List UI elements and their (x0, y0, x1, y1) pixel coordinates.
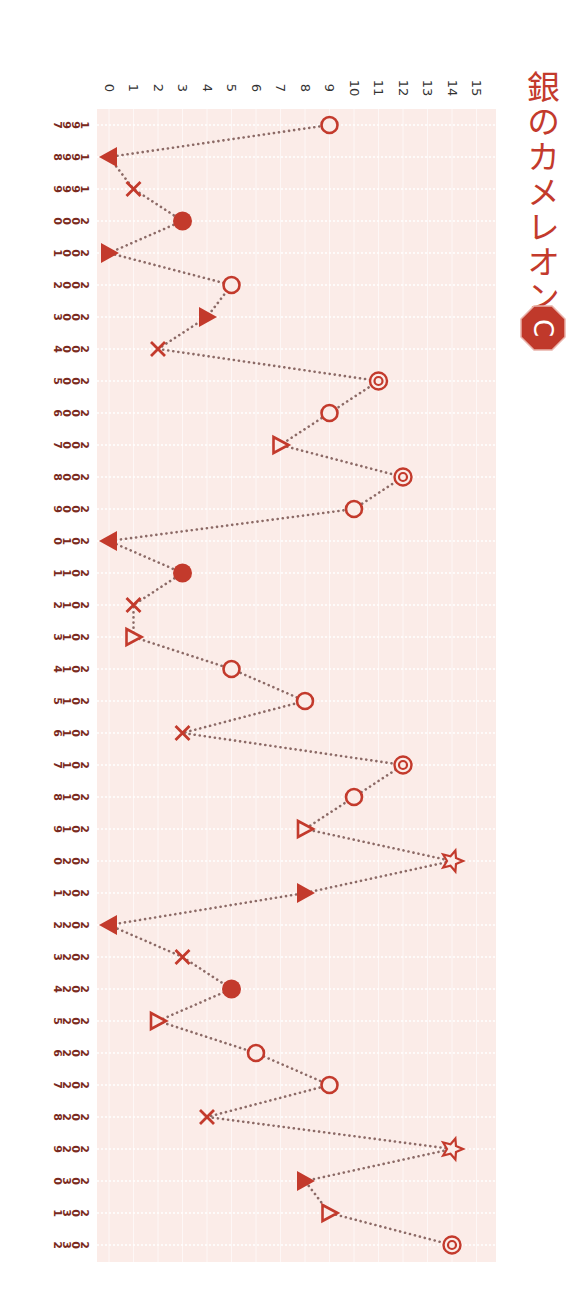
year-label: 2014 (51, 665, 91, 673)
year-label: 2005 (51, 377, 91, 385)
svg-text:7: 7 (51, 761, 64, 769)
chart-title-text: 銀のカメレオン (516, 70, 566, 315)
svg-text:0: 0 (51, 217, 64, 225)
year-label: 2019 (51, 825, 91, 833)
year-label: 2025 (51, 1017, 91, 1025)
svg-text:6: 6 (51, 729, 64, 737)
year-label: 2031 (51, 1209, 91, 1217)
year-label: 2029 (51, 1145, 91, 1153)
marker-circle-icon (297, 693, 313, 709)
value-tick-label: 7 (273, 84, 288, 92)
svg-text:7: 7 (51, 121, 64, 129)
value-tick-label: 2 (151, 84, 166, 92)
marker-dot-icon (173, 212, 192, 231)
year-label: 2007 (51, 441, 91, 449)
svg-text:3: 3 (51, 313, 64, 321)
marker-circle-icon (322, 405, 338, 421)
year-label: 2022 (51, 921, 91, 929)
svg-text:8: 8 (51, 793, 64, 801)
svg-text:2: 2 (51, 1241, 64, 1249)
svg-text:6: 6 (51, 1049, 64, 1057)
svg-text:6: 6 (51, 409, 64, 417)
marker-double-circle-icon (395, 757, 412, 774)
svg-text:7: 7 (51, 1081, 64, 1089)
value-tick-label: 3 (175, 84, 190, 92)
year-label: 2001 (51, 249, 91, 257)
marker-circle-icon (322, 117, 338, 133)
marker-double-circle-icon (395, 469, 412, 486)
marker-circle-icon (346, 789, 362, 805)
svg-text:1: 1 (51, 889, 64, 897)
year-label: 2011 (51, 569, 91, 577)
svg-text:5: 5 (51, 377, 64, 385)
svg-text:8: 8 (51, 473, 64, 481)
svg-text:2: 2 (51, 601, 64, 609)
svg-text:1: 1 (51, 569, 64, 577)
svg-text:3: 3 (51, 953, 64, 961)
marker-double-circle-icon (444, 1237, 461, 1254)
marker-double-circle-icon (370, 373, 387, 390)
svg-text:2: 2 (51, 921, 64, 929)
svg-text:9: 9 (51, 1145, 64, 1153)
svg-text:9: 9 (51, 825, 64, 833)
year-label: 2017 (51, 761, 91, 769)
year-label: 1998 (51, 153, 91, 161)
year-label: 2002 (51, 281, 91, 289)
svg-text:9: 9 (51, 185, 64, 193)
year-label: 2009 (51, 505, 91, 513)
value-tick-label: 5 (224, 84, 239, 92)
year-label: 2018 (51, 793, 91, 801)
value-tick-label: 1 (126, 84, 141, 92)
year-axis-labels: 1997199819992000200120022003200420052006… (51, 121, 91, 1249)
year-label: 2020 (51, 857, 91, 865)
year-label: 2021 (51, 889, 91, 897)
badge-c-icon: C (520, 305, 566, 351)
year-label: 2012 (51, 601, 91, 609)
svg-text:5: 5 (51, 697, 64, 705)
svg-text:4: 4 (51, 985, 64, 993)
value-tick-label: 8 (298, 84, 313, 92)
value-tick-label: 0 (102, 84, 117, 92)
plot-area (97, 109, 496, 1262)
year-label: 2015 (51, 697, 91, 705)
year-label: 2004 (51, 345, 91, 353)
year-label: 2013 (51, 633, 91, 641)
year-label: 2027 (51, 1081, 91, 1089)
svg-text:4: 4 (51, 665, 64, 673)
year-label: 2010 (51, 537, 91, 545)
svg-text:2: 2 (51, 281, 64, 289)
value-tick-label: 10 (347, 80, 362, 97)
marker-dot-icon (173, 564, 192, 583)
year-label: 2026 (51, 1049, 91, 1057)
badge-letter: C (528, 319, 558, 337)
marker-circle-icon (346, 501, 362, 517)
value-axis-ticks: 0123456789101112131415 (102, 80, 485, 97)
marker-dot-icon (222, 980, 241, 999)
value-tick-label: 15 (469, 80, 484, 97)
svg-text:1: 1 (51, 1209, 64, 1217)
year-label: 1997 (51, 121, 91, 129)
marker-circle-icon (224, 277, 240, 293)
year-label: 2016 (51, 729, 91, 737)
marker-circle-icon (322, 1077, 338, 1093)
svg-text:1: 1 (51, 249, 64, 257)
svg-text:0: 0 (51, 857, 64, 865)
marker-circle-icon (224, 661, 240, 677)
value-tick-label: 6 (249, 84, 264, 92)
svg-text:4: 4 (51, 345, 64, 353)
value-tick-label: 12 (396, 80, 411, 97)
year-label: 2030 (51, 1177, 91, 1185)
svg-text:9: 9 (51, 505, 64, 513)
value-tick-label: 14 (445, 80, 460, 97)
svg-text:3: 3 (51, 633, 64, 641)
year-label: 2003 (51, 313, 91, 321)
value-tick-label: 9 (322, 84, 337, 92)
year-label: 2024 (51, 985, 91, 993)
year-label: 2000 (51, 217, 91, 225)
svg-text:8: 8 (51, 1113, 64, 1121)
year-label: 2006 (51, 409, 91, 417)
svg-text:0: 0 (51, 1177, 64, 1185)
year-label: 2028 (51, 1113, 91, 1121)
marker-circle-icon (248, 1045, 264, 1061)
year-label: 2032 (51, 1241, 91, 1249)
